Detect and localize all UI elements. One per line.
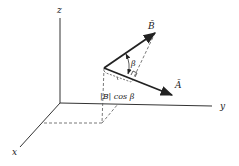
x-axis-label: x — [12, 147, 17, 157]
z-axis-label: z — [56, 5, 62, 15]
construction-lines — [44, 33, 155, 123]
vector-a — [104, 68, 172, 95]
vector-projection-diagram: z y x B̄ Ā β |B| cos β — [0, 0, 239, 166]
vector-b-label: B̄ — [147, 20, 155, 31]
diagram-svg: z y x B̄ Ā β |B| cos β — [0, 0, 239, 166]
x-axis — [20, 103, 60, 147]
vector-b — [104, 33, 155, 68]
y-axis — [60, 103, 212, 106]
projection-label: |B| cos β — [100, 92, 135, 101]
vector-a-label: Ā — [174, 79, 182, 90]
y-axis-label: y — [219, 101, 226, 111]
angle-label: β — [130, 59, 136, 68]
angle-arc — [126, 54, 129, 74]
